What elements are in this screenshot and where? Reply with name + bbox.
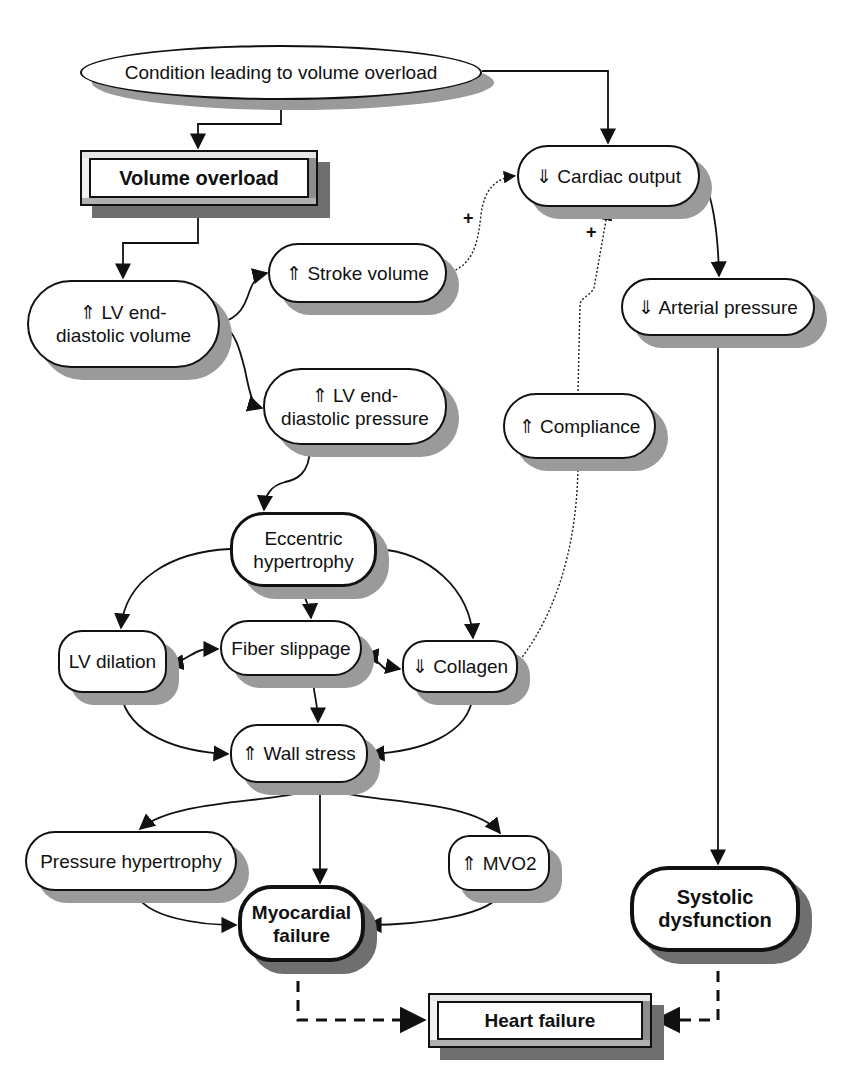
- node-label-line: hypertrophy: [253, 550, 353, 573]
- node-volume-overload: Volume overload: [80, 150, 318, 206]
- node-label: Condition leading to volume overload: [125, 61, 438, 84]
- node-label-line: Eccentric: [264, 527, 342, 550]
- node-eccentric-hypertrophy: Eccentric hypertrophy: [230, 512, 377, 587]
- node-label: ⇑ Compliance: [519, 415, 641, 438]
- node-label: Pressure hypertrophy: [40, 850, 222, 873]
- edge-lvedp-eccentric: [264, 447, 310, 510]
- edge-eccentric-collagen: [377, 549, 473, 638]
- edge-eccentric-lvdilation: [121, 549, 230, 628]
- node-label-line: ⇑ LV end-: [312, 384, 398, 407]
- node-label: ⇑ Stroke volume: [286, 262, 429, 285]
- node-lv-edv: ⇑ LV end- diastolic volume: [27, 280, 220, 368]
- node-compliance: ⇑ Compliance: [503, 393, 656, 459]
- node-cardiac-output: ⇓ Cardiac output: [517, 145, 700, 207]
- edge-collagen-compliance-dotted: [520, 460, 578, 660]
- node-arterial-pressure: ⇓ Arterial pressure: [621, 278, 815, 336]
- node-label-line: ⇑ LV end-: [80, 301, 166, 324]
- node-wall-stress: ⇑ Wall stress: [230, 724, 368, 783]
- node-myocardial-failure: Myocardial failure: [238, 885, 365, 962]
- positive-sign: +: [463, 208, 474, 229]
- node-label-line: Systolic: [677, 886, 754, 909]
- node-label: ⇓ Cardiac output: [536, 165, 681, 188]
- node-condition: Condition leading to volume overload: [80, 45, 482, 100]
- edge-condition-cardiac-output: [482, 71, 608, 143]
- node-label: ⇑ MVO2: [461, 852, 536, 875]
- node-collagen: ⇓ Collagen: [402, 640, 518, 693]
- node-label-line: diastolic pressure: [281, 407, 429, 430]
- node-label-line: diastolic volume: [56, 324, 191, 347]
- node-label: LV dilation: [69, 650, 156, 673]
- node-label: ⇑ Wall stress: [242, 742, 355, 765]
- node-mvo2: ⇑ MVO2: [448, 835, 550, 891]
- node-label: ⇓ Collagen: [412, 655, 508, 678]
- node-label: Volume overload: [89, 158, 309, 198]
- node-label-line: failure: [273, 924, 330, 947]
- node-fiber-slippage: Fiber slippage: [220, 620, 362, 676]
- node-systolic-dysfunction: Systolic dysfunction: [630, 866, 800, 952]
- node-label-line: Myocardial: [252, 901, 351, 924]
- edge-stroke-co-dotted: [448, 176, 515, 273]
- node-lv-dilation: LV dilation: [58, 630, 167, 693]
- node-label: ⇓ Arterial pressure: [638, 296, 798, 319]
- node-lv-edp: ⇑ LV end- diastolic pressure: [263, 368, 447, 445]
- node-heart-failure: Heart failure: [428, 993, 652, 1048]
- node-label-line: dysfunction: [658, 909, 771, 932]
- node-pressure-hypertrophy: Pressure hypertrophy: [25, 831, 237, 891]
- positive-sign: +: [586, 222, 597, 243]
- node-stroke-volume: ⇑ Stroke volume: [268, 243, 447, 303]
- node-label: Fiber slippage: [231, 637, 350, 660]
- node-label: Heart failure: [437, 1001, 643, 1040]
